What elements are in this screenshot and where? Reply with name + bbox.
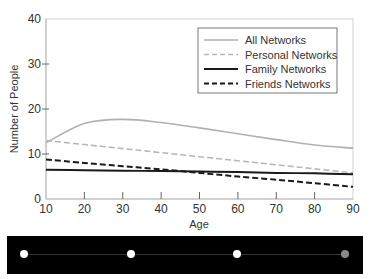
x-ticks: 102030405060708090 (39, 192, 360, 216)
legend: All NetworksPersonal NetworksFamily Netw… (198, 28, 338, 93)
x-tick-label: 70 (270, 202, 284, 216)
series-line-all-networks (46, 119, 353, 148)
legend-label: Family Networks (245, 63, 327, 75)
x-axis-label: Age (189, 218, 209, 230)
legend-label: Personal Networks (245, 49, 338, 61)
y-tick-label: 10 (28, 147, 42, 161)
x-tick-label: 30 (116, 202, 130, 216)
nav-dot-3[interactable] (233, 250, 241, 258)
legend-label: All Networks (245, 34, 307, 46)
slide-navigator (7, 236, 363, 274)
x-tick-label: 40 (154, 202, 168, 216)
nav-dot-4[interactable] (341, 250, 349, 258)
nav-dot-1[interactable] (20, 250, 28, 258)
navigator-track (25, 254, 345, 255)
x-tick-label: 10 (39, 202, 53, 216)
y-tick-label: 20 (28, 102, 42, 116)
legend-label: Friends Networks (245, 78, 331, 90)
x-tick-label: 50 (193, 202, 207, 216)
x-tick-label: 90 (346, 202, 360, 216)
nav-dot-2[interactable] (127, 250, 135, 258)
y-tick-label: 40 (28, 12, 42, 26)
x-tick-label: 60 (231, 202, 245, 216)
x-tick-label: 20 (78, 202, 92, 216)
x-tick-label: 80 (308, 202, 322, 216)
y-tick-label: 30 (28, 57, 42, 71)
series-lines (46, 119, 353, 187)
line-chart: 010203040 102030405060708090 Age Number … (0, 0, 371, 236)
series-line-personal-networks (46, 141, 353, 173)
y-axis-label: Number of People (8, 65, 20, 154)
